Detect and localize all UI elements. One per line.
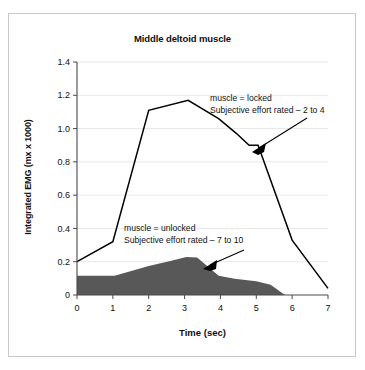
locked-annotation-line1: muscle = locked — [210, 93, 272, 103]
locked-annotation-line2: Subjective effort rated – 2 to 4 — [210, 105, 325, 115]
unlocked-area-path — [77, 257, 328, 295]
x-tick-label: 2 — [146, 303, 151, 313]
x-tick-label: 5 — [254, 303, 259, 313]
chart-plot-area: 00.20.40.60.81.01.21.4 01234567 muscle =… — [0, 0, 365, 370]
axis-lines — [77, 62, 328, 295]
unlocked-annotation-line2: Subjective effort rated – 7 to 10 — [124, 235, 243, 245]
y-tick-label: 0.6 — [57, 190, 70, 200]
y-tick-label: 0.4 — [57, 224, 70, 234]
x-tick-label: 1 — [110, 303, 115, 313]
y-tick-label: 1.4 — [57, 57, 70, 67]
locked-annotation: muscle = locked Subjective effort rated … — [210, 93, 325, 155]
y-tick-labels: 00.20.40.60.81.01.21.4 — [57, 57, 70, 300]
unlocked-annotation-line1: muscle = unlocked — [124, 223, 196, 233]
x-tick-label: 0 — [74, 303, 79, 313]
x-tick-label: 6 — [290, 303, 295, 313]
y-tick-label: 0 — [65, 290, 70, 300]
x-tick-labels: 01234567 — [74, 303, 330, 313]
y-tick-label: 1.0 — [57, 124, 70, 134]
y-tick-label: 0.8 — [57, 157, 70, 167]
x-tick-label: 3 — [182, 303, 187, 313]
x-tick-label: 7 — [325, 303, 330, 313]
y-tick-label: 0.2 — [57, 257, 70, 267]
unlocked-area-series — [77, 257, 328, 295]
x-tick-label: 4 — [218, 303, 223, 313]
locked-annotation-arrow-line — [259, 118, 307, 148]
y-tick-label: 1.2 — [57, 90, 70, 100]
gridlines — [77, 62, 328, 262]
